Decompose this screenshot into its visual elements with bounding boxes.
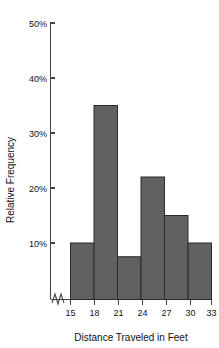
histogram-bar-21-24 (118, 257, 142, 300)
x-tick-label-18: 18 (89, 308, 99, 318)
y-axis-ticks: 50% 40% 30% 20% 10% (29, 19, 55, 249)
x-axis-title: Distance Traveled in Feet (74, 332, 188, 343)
x-tick-label-21: 21 (113, 308, 123, 318)
histogram-svg: Relative Frequency 50% 40% 30% 20% 10% (0, 0, 219, 348)
y-axis-title: Relative Frequency (5, 137, 16, 223)
axis-break-icon (51, 290, 65, 304)
y-tick-label-50: 50% (29, 19, 47, 29)
histogram-figure: Relative Frequency 50% 40% 30% 20% 10% (0, 0, 219, 348)
histogram-bar-27-30 (165, 216, 189, 300)
y-tick-30: 30% (29, 129, 55, 139)
x-tick-label-33: 33 (206, 308, 216, 318)
histogram-bars (71, 106, 212, 300)
y-tick-10: 10% (29, 239, 55, 249)
y-tick-50: 50% (29, 19, 55, 29)
y-tick-label-30: 30% (29, 129, 47, 139)
x-tick-label-30: 30 (185, 308, 195, 318)
histogram-bar-24-27 (141, 177, 165, 300)
x-tick-label-27: 27 (161, 308, 171, 318)
y-tick-40: 40% (29, 74, 55, 84)
y-tick-label-10: 10% (29, 239, 47, 249)
y-tick-20: 20% (29, 184, 55, 194)
x-tick-label-24: 24 (137, 308, 147, 318)
histogram-bar-30-33 (188, 243, 212, 300)
histogram-bar-15-18 (71, 243, 95, 300)
y-tick-label-40: 40% (29, 74, 47, 84)
y-tick-label-20: 20% (29, 184, 47, 194)
x-axis-ticks (71, 300, 212, 306)
histogram-bar-18-21 (94, 106, 118, 300)
x-axis-tick-labels: 15 18 21 24 27 30 33 (65, 308, 216, 318)
x-tick-label-15: 15 (65, 308, 75, 318)
